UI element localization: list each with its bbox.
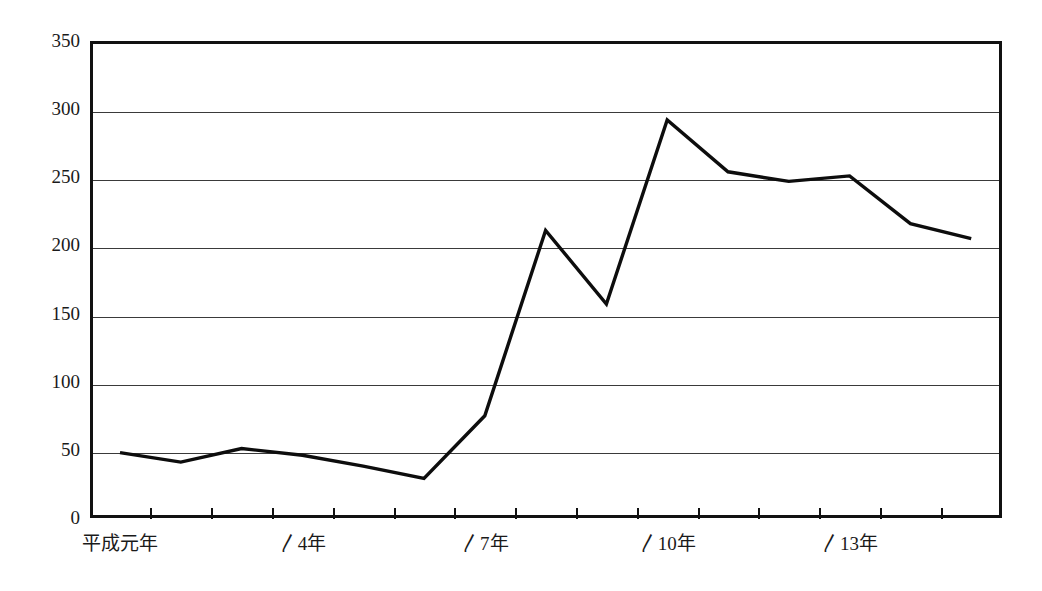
gridline-300 — [93, 112, 999, 113]
y-axis-tick-label-150: 150 — [6, 304, 80, 323]
x-axis-tick-label-6: 〳7年 — [461, 533, 509, 555]
x-axis-tick-8 — [637, 508, 639, 519]
x-axis-tick-label-3: 〳4年 — [279, 533, 327, 555]
y-axis-label-group: 050100150200250300350 — [0, 0, 80, 591]
x-axis-tick-12 — [880, 508, 882, 519]
x-axis-tick-10 — [758, 508, 760, 519]
x-axis-tick-1 — [211, 508, 213, 519]
x-axis-tick-2 — [272, 508, 274, 519]
y-axis-tick-label-350: 350 — [6, 31, 80, 50]
y-axis-tick-label-300: 300 — [6, 99, 80, 118]
x-axis-tick-0 — [150, 508, 152, 519]
gridline-200 — [93, 248, 999, 249]
gridline-100 — [93, 385, 999, 386]
x-axis-tick-label-9: 〳10年 — [639, 533, 696, 555]
x-axis-tick-9 — [698, 508, 700, 519]
x-axis-tick-11 — [819, 508, 821, 519]
chart-title — [0, 0, 1042, 3]
plot-area — [90, 41, 1002, 518]
x-axis-tick-13 — [941, 508, 943, 519]
x-axis-tick-label-0: 平成元年 — [82, 533, 158, 555]
x-axis-tick-3 — [333, 508, 335, 519]
y-axis-tick-label-0: 0 — [6, 508, 80, 527]
gridline-50 — [93, 453, 999, 454]
chart-page: 050100150200250300350 平成元年〳4年〳7年〳10年〳13年 — [0, 0, 1042, 591]
gridline-150 — [93, 317, 999, 318]
x-axis-tick-5 — [454, 508, 456, 519]
x-axis-tick-4 — [394, 508, 396, 519]
y-axis-tick-label-250: 250 — [6, 167, 80, 186]
x-axis-tick-6 — [515, 508, 517, 519]
y-axis-tick-label-200: 200 — [6, 235, 80, 254]
x-axis-tick-label-12: 〳13年 — [821, 533, 878, 555]
y-axis-tick-label-50: 50 — [6, 440, 80, 459]
gridline-250 — [93, 180, 999, 181]
x-axis-tick-7 — [576, 508, 578, 519]
y-axis-tick-label-100: 100 — [6, 372, 80, 391]
